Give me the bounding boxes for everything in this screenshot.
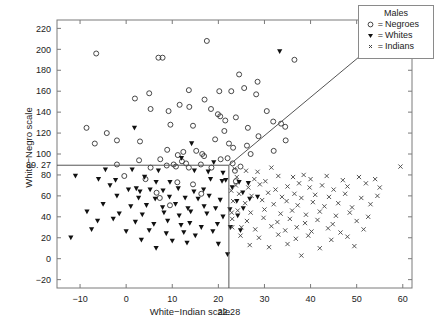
- data-point: [313, 193, 317, 197]
- x-axis-label: White−Indian scale: [120, 306, 260, 317]
- data-point: [233, 115, 238, 120]
- data-point: [237, 72, 242, 77]
- data-point: [191, 182, 196, 187]
- data-point: [238, 164, 243, 169]
- data-point: [139, 238, 144, 243]
- y-tick-label: 120: [36, 128, 51, 138]
- legend-title: Males: [359, 6, 433, 19]
- data-point: [350, 205, 354, 209]
- data-point: [137, 139, 142, 144]
- data-point: [202, 97, 207, 102]
- data-point: [320, 183, 324, 187]
- data-point: [243, 201, 247, 205]
- y-tick-label: 80: [41, 170, 51, 180]
- data-point: [193, 233, 198, 238]
- legend-label-indians: Indians: [385, 41, 414, 52]
- data-point: [173, 202, 178, 207]
- data-point: [114, 194, 119, 199]
- series-negroes: [84, 38, 297, 207]
- data-point: [199, 191, 204, 196]
- data-point: [73, 174, 78, 179]
- data-point: [218, 198, 223, 203]
- data-point: [164, 231, 169, 236]
- data-point: [220, 171, 225, 176]
- data-point: [126, 187, 131, 192]
- data-point: [208, 177, 213, 182]
- data-point: [336, 201, 340, 205]
- data-point: [220, 215, 225, 220]
- data-point: [191, 123, 196, 128]
- data-point: [103, 168, 108, 173]
- data-point: [271, 119, 276, 124]
- x-tick-label: 40: [306, 294, 316, 304]
- data-point: [95, 219, 100, 224]
- data-point: [114, 162, 119, 167]
- data-point: [151, 222, 156, 227]
- data-point: [213, 206, 218, 211]
- data-point: [255, 195, 260, 200]
- data-point: [361, 227, 365, 231]
- data-point: [296, 203, 300, 207]
- data-point: [128, 204, 133, 209]
- data-point: [165, 147, 170, 152]
- data-point: [285, 242, 289, 246]
- data-point: [299, 196, 303, 200]
- circle-open-marker-icon: [365, 19, 376, 30]
- data-point: [280, 195, 284, 199]
- data-point: [225, 252, 230, 257]
- data-point: [309, 229, 313, 233]
- data-point: [279, 212, 283, 216]
- plot-frame: [57, 20, 412, 288]
- data-point: [183, 196, 188, 201]
- data-point: [277, 49, 282, 54]
- data-point: [269, 224, 273, 228]
- data-point: [366, 215, 370, 219]
- data-point: [398, 164, 402, 168]
- data-point: [260, 198, 264, 202]
- legend-entry-whites: = Whites: [359, 30, 433, 41]
- data-point: [96, 177, 101, 182]
- data-point: [297, 181, 301, 185]
- data-point: [263, 179, 267, 183]
- data-point: [191, 189, 196, 194]
- data-point: [237, 192, 241, 196]
- data-point: [223, 178, 228, 183]
- data-point: [170, 239, 175, 244]
- data-point: [291, 175, 295, 179]
- data-point: [254, 92, 259, 97]
- data-point: [290, 208, 294, 212]
- data-point: [148, 187, 153, 192]
- data-point: [184, 241, 189, 246]
- data-point: [219, 179, 224, 184]
- x-tick-label: −10: [72, 294, 87, 304]
- y-tick-label: 220: [36, 24, 51, 34]
- data-point: [137, 158, 142, 163]
- data-point: [252, 177, 256, 181]
- data-point: [187, 104, 192, 109]
- data-point: [231, 145, 236, 150]
- x-tick-label: 50: [352, 294, 362, 304]
- data-point: [84, 125, 89, 130]
- data-point: [213, 137, 218, 142]
- data-point: [198, 162, 203, 167]
- data-point: [229, 189, 233, 193]
- series-indians: [229, 164, 402, 257]
- data-point: [378, 185, 382, 189]
- legend-entry-negroes: = Negroes: [359, 19, 433, 30]
- data-point: [147, 228, 152, 233]
- data-point: [160, 205, 165, 210]
- data-point: [229, 89, 234, 94]
- data-point: [255, 79, 260, 84]
- data-point: [94, 51, 99, 56]
- data-point: [133, 220, 138, 225]
- data-point: [238, 234, 242, 238]
- data-point: [181, 149, 186, 154]
- data-point: [204, 211, 209, 216]
- data-point: [206, 170, 211, 175]
- data-point: [283, 228, 287, 232]
- data-point: [308, 177, 312, 181]
- data-point: [215, 222, 220, 227]
- data-point: [375, 194, 379, 198]
- y-tick-label: 0: [46, 254, 51, 264]
- data-point: [199, 225, 204, 230]
